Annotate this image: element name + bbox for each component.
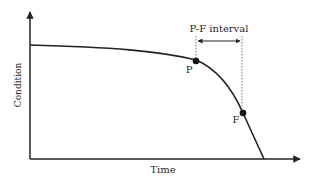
condition-curve xyxy=(30,45,264,159)
point-f-label: F xyxy=(233,114,240,125)
pf-curve-diagram: P-F interval P F Condition Time xyxy=(0,0,317,179)
pf-interval-label: P-F interval xyxy=(190,23,249,34)
y-axis-label: Condition xyxy=(13,63,23,108)
point-f-marker xyxy=(240,110,247,117)
point-p-marker xyxy=(193,58,200,65)
point-p-label: P xyxy=(186,64,193,75)
x-axis-label: Time xyxy=(150,164,175,175)
